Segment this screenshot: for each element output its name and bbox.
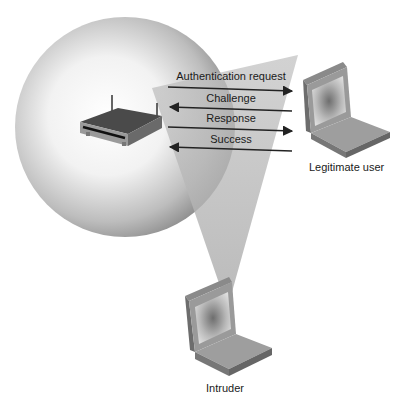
diagram-canvas — [0, 0, 402, 399]
intruder-laptop-icon — [185, 277, 272, 376]
message-success: Success — [156, 133, 306, 145]
legitimate-user-laptop-icon — [303, 62, 390, 158]
intruder-label: Intruder — [206, 382, 244, 394]
message-challenge: Challenge — [156, 92, 306, 104]
message-response: Response — [156, 112, 306, 124]
message-auth-request: Authentication request — [156, 70, 306, 82]
legitimate-user-label: Legitimate user — [309, 161, 384, 173]
